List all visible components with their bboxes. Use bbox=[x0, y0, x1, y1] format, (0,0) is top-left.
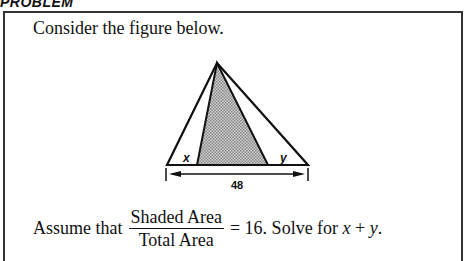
statement-end: . bbox=[378, 218, 383, 239]
statement-prefix: Assume that bbox=[33, 218, 123, 239]
area-fraction: Shaded Area Total Area bbox=[129, 207, 224, 250]
statement-equals: = 16. Solve for bbox=[230, 218, 338, 239]
problem-statement: Assume that Shaded Area Total Area = 16.… bbox=[33, 207, 382, 250]
plus-sign: + bbox=[355, 218, 365, 239]
var-x: x bbox=[343, 218, 351, 239]
arrow-right-icon bbox=[293, 171, 305, 177]
base-length-label: 48 bbox=[231, 179, 243, 191]
label-y: y bbox=[279, 151, 288, 165]
arrow-left-icon bbox=[169, 171, 181, 177]
fraction-denominator: Total Area bbox=[137, 229, 216, 250]
fraction-numerator: Shaded Area bbox=[129, 207, 224, 229]
var-y: y bbox=[370, 218, 378, 239]
shaded-region bbox=[197, 63, 268, 165]
label-x: x bbox=[182, 151, 191, 165]
